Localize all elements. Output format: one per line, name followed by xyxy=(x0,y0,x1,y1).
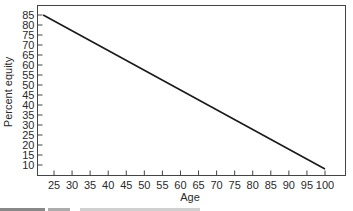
x-tick-label: 95 xyxy=(301,179,313,191)
x-tick-label: 85 xyxy=(265,179,277,191)
plot-frame xyxy=(38,6,346,176)
x-tick-label: 50 xyxy=(138,179,150,191)
x-tick-label: 30 xyxy=(66,179,78,191)
equity-by-age-chart: 10152025303540455055606570758085 2530354… xyxy=(0,0,353,205)
x-tick-label: 65 xyxy=(192,179,204,191)
x-axis-title: Age xyxy=(180,191,200,203)
x-tick-label: 90 xyxy=(283,179,295,191)
x-tick-label: 100 xyxy=(316,179,334,191)
y-axis-title: Percent equity xyxy=(2,56,14,127)
y-tick-label: 85 xyxy=(22,9,34,21)
x-tick-label: 25 xyxy=(48,179,60,191)
caption-text-fragment xyxy=(0,208,200,211)
x-tick-label: 60 xyxy=(174,179,186,191)
x-tick-label: 80 xyxy=(247,179,259,191)
x-tick-label: 70 xyxy=(210,179,222,191)
x-tick-label: 55 xyxy=(156,179,168,191)
x-tick-label: 45 xyxy=(120,179,132,191)
x-axis-ticks: 253035404550556065707580859095100 xyxy=(48,171,334,191)
data-line xyxy=(43,15,325,169)
x-tick-label: 35 xyxy=(84,179,96,191)
x-tick-label: 40 xyxy=(102,179,114,191)
y-axis-ticks: 10152025303540455055606570758085 xyxy=(22,9,42,171)
x-tick-label: 75 xyxy=(229,179,241,191)
figure-caption-cropped xyxy=(0,205,200,211)
